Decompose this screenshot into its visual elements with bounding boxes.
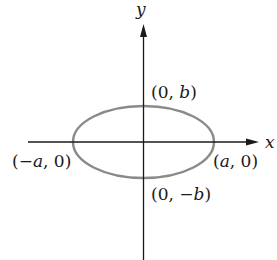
y-axis-arrow-icon xyxy=(140,24,147,37)
y-axis-label: y xyxy=(135,0,146,19)
x-axis-label: x xyxy=(265,132,275,152)
label-bottom-vertex: (0, −b) xyxy=(151,184,211,204)
x-axis-arrow-icon xyxy=(246,139,259,146)
label-right-vertex: (a, 0) xyxy=(213,151,258,171)
ellipse-diagram: y x (0, b) (0, −b) (−a, 0) (a, 0) xyxy=(0,0,277,260)
label-left-vertex: (−a, 0) xyxy=(12,151,71,171)
label-top-vertex: (0, b) xyxy=(151,82,197,102)
